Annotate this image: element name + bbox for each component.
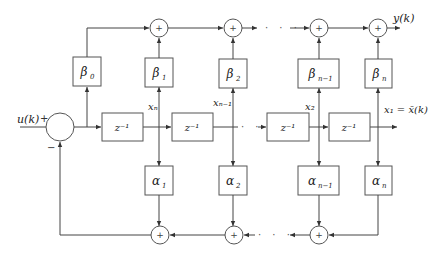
svg-text:n: n xyxy=(382,182,387,190)
svg-text:+: + xyxy=(315,230,323,240)
minus-sign: − xyxy=(47,142,55,153)
alpha-n-1-block xyxy=(298,166,339,195)
delay-block-3: z⁻¹ xyxy=(267,113,309,141)
svg-text:z⁻¹: z⁻¹ xyxy=(184,122,200,133)
svg-text:β: β xyxy=(226,67,234,81)
svg-text:β: β xyxy=(80,65,88,79)
svg-text:+: + xyxy=(315,23,323,33)
svg-text:+: + xyxy=(155,23,163,33)
alpha2-branch: α 2 xyxy=(219,127,247,226)
svg-text:n: n xyxy=(382,75,387,83)
beta0-branch: β 0 xyxy=(73,28,149,127)
svg-text:+: + xyxy=(374,23,382,33)
plus-sign: + xyxy=(40,113,48,124)
svg-text:z⁻¹: z⁻¹ xyxy=(341,122,357,133)
feedback-sum-chain: + · · · + + xyxy=(60,142,328,244)
svg-text:z⁻¹: z⁻¹ xyxy=(280,122,296,133)
svg-text:β: β xyxy=(308,67,316,81)
input-summing-junction: u(k) + − xyxy=(17,113,74,153)
svg-text:α: α xyxy=(152,174,160,188)
beta1-branch: β 1 xyxy=(145,38,173,127)
output-label: y(k) xyxy=(392,12,414,25)
svg-text:β: β xyxy=(152,66,160,80)
state-label-xn: xₙ xyxy=(148,101,158,112)
svg-text:n−1: n−1 xyxy=(318,182,333,190)
svg-text:2: 2 xyxy=(235,182,241,190)
alpha1-branch: α 1 xyxy=(145,127,173,226)
state-label-xn-1: xₙ₋₁ xyxy=(213,97,232,108)
svg-text:1: 1 xyxy=(162,74,166,82)
alpha-n-1-branch: α n−1 xyxy=(298,127,339,226)
svg-text:n−1: n−1 xyxy=(318,75,333,83)
svg-text:+: + xyxy=(229,23,237,33)
delay-block-4: z⁻¹ xyxy=(329,113,370,141)
svg-text:+: + xyxy=(230,230,238,240)
main-sum-circle xyxy=(46,113,74,141)
block-diagram: u(k) + − · · · z⁻¹ z⁻¹ z⁻¹ z⁻¹ xₙ xₙ₋₁ x… xyxy=(0,0,438,256)
output-sum-chain: + + · · · + + y(k) xyxy=(150,12,414,37)
delay-block-1: z⁻¹ xyxy=(102,113,143,141)
svg-text:1: 1 xyxy=(162,182,166,190)
svg-text:+: + xyxy=(156,230,164,240)
svg-text:α: α xyxy=(372,174,380,188)
beta-n-1-block xyxy=(298,59,339,88)
svg-text:α: α xyxy=(226,174,234,188)
beta2-branch: β 2 xyxy=(219,38,247,127)
input-label: u(k) xyxy=(17,113,39,126)
delay-block-2: z⁻¹ xyxy=(172,113,213,141)
ellipsis-bottom: · · · xyxy=(258,229,294,240)
svg-text:β: β xyxy=(372,67,380,81)
svg-text:z⁻¹: z⁻¹ xyxy=(114,122,130,133)
state-output-label: x₁ = x̄(k) xyxy=(384,104,428,115)
svg-text:0: 0 xyxy=(90,73,95,81)
svg-text:α: α xyxy=(308,174,316,188)
state-label-x2: x₂ xyxy=(305,101,315,112)
svg-text:2: 2 xyxy=(235,75,241,83)
